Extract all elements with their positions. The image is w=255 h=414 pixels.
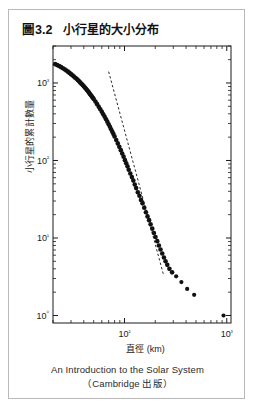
source-caption: An Introduction to the Solar System （Cam… (9, 362, 246, 391)
svg-text:10³: 10³ (37, 78, 49, 89)
figure-card: 圖3.2 小行星的大小分布 10²10³10⁰10¹10²10³ 小行星的累計數… (8, 9, 245, 399)
svg-text:10³: 10³ (221, 329, 233, 340)
svg-text:10¹: 10¹ (37, 233, 49, 244)
svg-text:10²: 10² (118, 329, 130, 340)
svg-text:10⁰: 10⁰ (37, 310, 50, 321)
source-title: An Introduction to the Solar System (9, 362, 246, 377)
data-point-group (53, 62, 226, 318)
svg-text:10²: 10² (37, 155, 49, 166)
y-axis-title: 小行星的累計數量 (23, 87, 36, 187)
source-publisher: （Cambridge 出版） (9, 377, 246, 391)
x-axis-title: 直徑 (km) (53, 342, 238, 355)
chart-plot-area: 10²10³10⁰10¹10²10³ 小行星的累計數量 直徑 (km) (9, 10, 246, 400)
